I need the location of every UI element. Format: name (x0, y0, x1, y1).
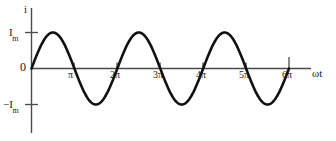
x-axis-label: ωt (312, 68, 322, 79)
x-label-4pi: 4π (196, 70, 206, 80)
y-label-positive-peak: Im (9, 27, 19, 41)
x-label-pi: π (68, 70, 73, 80)
x-label-6pi: 6π (282, 70, 292, 80)
sine-waveform-figure: i Im 0 −Im π 2π 3π 4π 5π 6π ωt (0, 0, 336, 141)
x-label-5pi: 5π (239, 70, 249, 80)
y-axis-label: i (24, 4, 27, 15)
x-label-2pi: 2π (110, 70, 120, 80)
y-label-positive-peak-subscript: m (12, 34, 18, 43)
y-label-zero: 0 (20, 61, 26, 73)
y-label-negative-peak-subscript: m (12, 106, 18, 115)
y-label-negative-peak: −Im (3, 99, 19, 113)
x-label-3pi: 3π (153, 70, 163, 80)
